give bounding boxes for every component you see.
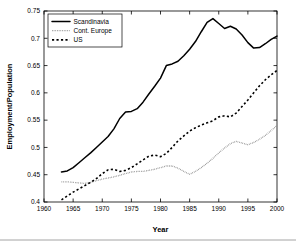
x-tick-label: 1975 [124,205,139,212]
y-tick-label: 0.55 [27,116,40,123]
y-axis-title: Employment/Population [5,63,14,149]
legend-label-us: US [74,36,84,43]
x-tick-label: 1995 [241,205,256,212]
employment-population-chart: 196019651970197519801985199019952000 0.4… [0,0,296,246]
x-tick-label: 1965 [66,205,81,212]
y-tick-label: 0.6 [31,89,40,96]
y-tick-label: 0.4 [31,198,40,205]
y-tick-label: 0.5 [31,144,40,151]
x-axis-title: Year [153,225,169,234]
y-tick-label: 0.75 [27,7,40,14]
chart-legend: ScandinaviaCont. EuropeUS [48,14,122,47]
y-tick-label: 0.7 [31,35,40,42]
x-axis-tick-labels: 196019651970197519801985199019952000 [37,205,285,212]
legend-label-cont-europe: Cont. Europe [74,27,113,35]
x-tick-label: 1960 [37,205,52,212]
y-tick-label: 0.65 [27,62,40,69]
x-tick-label: 1980 [153,205,168,212]
x-tick-label: 1985 [182,205,197,212]
y-tick-label: 0.45 [27,171,40,178]
x-tick-label: 1990 [212,205,227,212]
x-tick-label: 2000 [270,205,285,212]
x-tick-label: 1970 [95,205,110,212]
legend-label-scandinavia: Scandinavia [74,18,110,25]
